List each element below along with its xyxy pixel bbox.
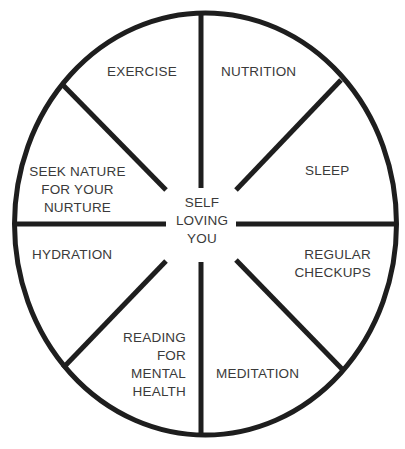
- segment-nutrition: NUTRITION: [221, 63, 296, 81]
- segment-meditation: MEDITATION: [216, 365, 299, 383]
- segment-hydration: HYDRATION: [32, 246, 112, 264]
- segment-seek-nature: SEEK NATURE FOR YOUR NURTURE: [20, 163, 135, 217]
- segment-exercise: EXERCISE: [107, 63, 177, 81]
- segment-reading-for-mental-health: READING FOR MENTAL HEALTH: [100, 329, 186, 401]
- center-label: SELF LOVING YOU: [160, 194, 244, 248]
- segment-sleep: SLEEP: [305, 162, 350, 180]
- segment-regular-checkups: REGULAR CHECKUPS: [280, 246, 371, 282]
